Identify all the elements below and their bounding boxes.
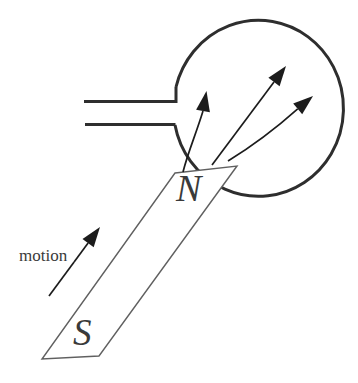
field-arrow-right-head-icon bbox=[293, 96, 313, 114]
field-arrow-middle-head-icon bbox=[268, 66, 286, 86]
field-arrow-left-head-icon bbox=[196, 91, 210, 112]
south-pole-label: S bbox=[73, 312, 92, 353]
motion-arrow-head-icon bbox=[83, 227, 101, 247]
north-pole-label: N bbox=[175, 167, 204, 209]
field-arrow-left bbox=[183, 91, 210, 172]
electromagnetic-induction-figure: N S motion bbox=[0, 0, 358, 383]
bar-magnet-body bbox=[42, 166, 237, 359]
induction-diagram-canvas: N S motion bbox=[0, 0, 358, 383]
field-arrow-middle bbox=[212, 66, 286, 165]
motion-arrow-shaft-upper bbox=[74, 243, 88, 262]
field-arrow-right bbox=[228, 96, 313, 161]
field-arrow-middle-shaft bbox=[212, 82, 274, 165]
field-arrow-right-shaft bbox=[228, 109, 298, 161]
coil-lead-top-wire bbox=[84, 87, 176, 102]
motion-arrow-shaft bbox=[49, 262, 74, 296]
motion-label: motion bbox=[19, 246, 68, 265]
